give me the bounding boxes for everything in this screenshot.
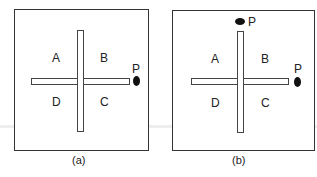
marker-p-dot: [133, 76, 140, 86]
cross-center-b: [238, 79, 243, 84]
marker-p-right-label: P: [294, 63, 302, 75]
quadrant-c-label: C: [261, 97, 270, 109]
marker-p-top-dot: [235, 18, 245, 25]
marker-p-top-label: P: [248, 16, 256, 28]
marker-p-label: P: [132, 63, 140, 75]
quadrant-b-label: B: [261, 53, 269, 65]
caption-a: (a): [72, 154, 85, 166]
quadrant-c-label: C: [100, 96, 109, 108]
quadrant-b-label: B: [100, 52, 108, 64]
cross-center-a: [78, 79, 83, 84]
quadrant-a-label: A: [211, 53, 219, 65]
marker-p-right-dot: [294, 77, 301, 87]
quadrant-d-label: D: [52, 96, 61, 108]
quadrant-a-label: A: [52, 52, 60, 64]
quadrant-d-label: D: [211, 97, 220, 109]
caption-b: (b): [232, 154, 245, 166]
